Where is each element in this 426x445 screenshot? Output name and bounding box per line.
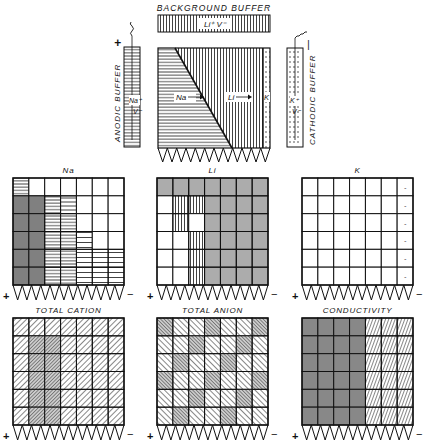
grid-cell [29, 196, 45, 214]
grid-cell [13, 407, 29, 425]
grid-cell [220, 267, 236, 285]
anode-plus-sign: + [114, 36, 121, 50]
grid-cell [92, 389, 108, 407]
grid-cell [350, 407, 366, 425]
grid-cell [76, 249, 92, 267]
grid-cell [189, 214, 205, 232]
grid-cell [302, 232, 318, 250]
grid-cell [236, 267, 252, 285]
grid-cell [92, 336, 108, 354]
grid-cell [45, 249, 61, 267]
cathode-minus-sign: − [416, 288, 422, 300]
top-schematic: BACKGROUND BUFFER Li⁺ V⁻ Na Li K [113, 3, 317, 162]
grid-cell [318, 407, 334, 425]
concentration-panels: Na+−Li+−K------+−TOTAL CATION+−TOTAL ANI… [3, 166, 422, 442]
grid-cell [302, 196, 318, 214]
grid-cell [108, 267, 124, 285]
background-buffer-label: BACKGROUND BUFFER [157, 3, 271, 13]
grid-cell [189, 249, 205, 267]
column-zone-na-label: Na [176, 93, 187, 102]
grid-cell [302, 178, 318, 196]
grid-cell [334, 336, 350, 354]
grid-cell [220, 178, 236, 196]
panel-li: Li+− [147, 166, 277, 302]
grid-cell [76, 354, 92, 372]
grid-cell [334, 389, 350, 407]
grid-cell [318, 178, 334, 196]
anode-plus-sign: + [292, 290, 298, 302]
grid-cell [61, 196, 77, 214]
grid-cell [61, 214, 77, 232]
grid-cell [29, 232, 45, 250]
grid-cell [173, 232, 189, 250]
grid-cell [205, 407, 221, 425]
panel-total-anion: TOTAL ANION+− [147, 306, 277, 442]
grid-cell [220, 336, 236, 354]
grid-cell [334, 372, 350, 390]
grid-cell [252, 354, 268, 372]
grid-cell [61, 318, 77, 336]
grid-cell [350, 389, 366, 407]
grid-cell [381, 178, 397, 196]
grid-cell [61, 336, 77, 354]
grid-cell [381, 318, 397, 336]
grid-cell [302, 336, 318, 354]
panel-title: CONDUCTIVITY [323, 306, 393, 315]
isotachophoresis-diagram: BACKGROUND BUFFER Li⁺ V⁻ Na Li K [0, 0, 426, 445]
grid-cell [318, 214, 334, 232]
grid-cell [318, 267, 334, 285]
grid-cell [157, 389, 173, 407]
grid-cell [397, 372, 413, 390]
grid-cell [29, 249, 45, 267]
grid-cell [365, 354, 381, 372]
cathode-minus-sign: − [271, 288, 277, 300]
grid-cell [108, 196, 124, 214]
grid-cell [334, 354, 350, 372]
grid-cell [236, 318, 252, 336]
grid-cell [92, 267, 108, 285]
grid-cell [397, 407, 413, 425]
grid-cell [381, 249, 397, 267]
grid-cell [205, 372, 221, 390]
grid-cell [29, 318, 45, 336]
grid-cell [236, 407, 252, 425]
grid-cell [92, 196, 108, 214]
grid-cell [29, 354, 45, 372]
grid-cell [157, 354, 173, 372]
grid-cell [173, 267, 189, 285]
grid-cell [365, 214, 381, 232]
grid-cell [220, 372, 236, 390]
grid-cell [205, 336, 221, 354]
grid-cell [173, 336, 189, 354]
anode-wire-icon [130, 22, 133, 36]
grid-cell [252, 318, 268, 336]
grid-cell [302, 249, 318, 267]
grid-cell [108, 178, 124, 196]
grid-cell [45, 318, 61, 336]
anodic-buffer: + Na⁺ V⁻ ANODIC BUFFER [113, 22, 143, 147]
grid-cell [318, 232, 334, 250]
grid-cell [350, 196, 366, 214]
grid-cell [61, 389, 77, 407]
grid-cell [365, 178, 381, 196]
grid-cell [334, 214, 350, 232]
grid-cell [157, 267, 173, 285]
grid-cell [350, 336, 366, 354]
cathodic-buffer-label: CATHODIC BUFFER [308, 55, 317, 145]
anode-plus-sign: + [292, 430, 298, 442]
panel-title: Li [209, 166, 217, 175]
grid-cell [318, 336, 334, 354]
grid-cell [173, 407, 189, 425]
grid-cell [189, 267, 205, 285]
grid-cell [205, 389, 221, 407]
grid-cell [252, 249, 268, 267]
panel-title: Na [63, 166, 75, 175]
grid-cell [205, 232, 221, 250]
grid-cell [381, 232, 397, 250]
grid-cell [350, 178, 366, 196]
grid-cell [189, 178, 205, 196]
grid-cell [108, 249, 124, 267]
grid-cell [92, 372, 108, 390]
grid-cell [45, 267, 61, 285]
grid-cell [236, 389, 252, 407]
